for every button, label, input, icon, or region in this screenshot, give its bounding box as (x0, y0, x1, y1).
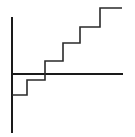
step-line (12, 8, 122, 95)
step-chart (0, 0, 135, 137)
